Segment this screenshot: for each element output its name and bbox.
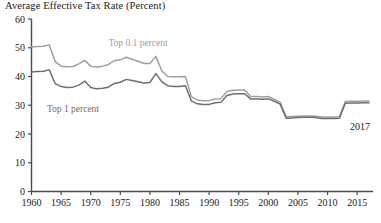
- y-tick-label: 30: [15, 100, 25, 111]
- series-label-group: Top 0.1 percentTop 1 percent: [47, 38, 168, 114]
- annotation-group: 2017: [350, 121, 370, 132]
- x-tick-label: 1960: [22, 197, 42, 208]
- y-tick-label: 0: [20, 186, 25, 197]
- series-label: Top 1 percent: [47, 104, 99, 114]
- x-tick-label: 1995: [229, 197, 249, 208]
- y-tick-label: 20: [15, 129, 25, 140]
- chart-container: Average Effective Tax Rate (Percent) 010…: [0, 0, 381, 223]
- x-tick-label: 1980: [140, 197, 160, 208]
- x-tick-label: 1985: [170, 197, 190, 208]
- x-tick-label: 1975: [110, 197, 130, 208]
- y-tick-label: 50: [15, 42, 25, 53]
- x-tick-label: 2005: [288, 197, 308, 208]
- annotation-label: 2017: [350, 121, 370, 132]
- x-tick-label: 1970: [81, 197, 101, 208]
- x-tick-label: 1965: [51, 197, 71, 208]
- y-tick-label: 60: [15, 14, 25, 25]
- y-tick-label: 40: [15, 71, 25, 82]
- y-tick-label: 10: [15, 157, 25, 168]
- x-axis-tick-group: 1960196519701975198019851990199520002005…: [22, 192, 368, 209]
- x-tick-label: 1990: [199, 197, 219, 208]
- x-tick-label: 2000: [258, 197, 278, 208]
- x-tick-label: 2015: [347, 197, 367, 208]
- x-tick-label: 2010: [318, 197, 338, 208]
- series-label: Top 0.1 percent: [108, 38, 168, 48]
- line-chart-plot: 0102030405060 19601965197019751980198519…: [0, 0, 381, 223]
- y-axis-tick-group: 0102030405060: [15, 14, 32, 198]
